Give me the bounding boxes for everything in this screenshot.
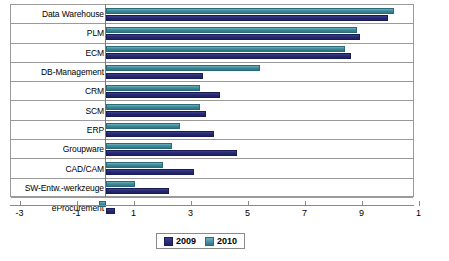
- legend-label-2010: 2010: [217, 236, 237, 246]
- x-tick-mark: [191, 201, 192, 206]
- bar-group: [11, 198, 413, 217]
- bar-group: [11, 101, 413, 119]
- bar-group: [11, 24, 413, 42]
- bar-2010: [106, 143, 172, 149]
- bar-2009: [106, 208, 115, 214]
- x-tick-mark: [305, 201, 306, 206]
- bar-group: [11, 5, 413, 23]
- x-tick-label: 9: [359, 208, 364, 218]
- chart-row: ECM: [11, 44, 413, 63]
- bar-2009: [106, 169, 194, 175]
- chart-row: CRM: [11, 82, 413, 101]
- x-tick-label: -3: [15, 208, 23, 218]
- bar-2010: [106, 85, 200, 91]
- bar-2009: [106, 111, 206, 117]
- category-axis-line: [105, 4, 106, 197]
- bar-2009: [106, 34, 360, 40]
- bar-group: [11, 159, 413, 177]
- bar-chart: Data WarehousePLMECMDB-ManagementCRMSCME…: [0, 0, 449, 261]
- bar-group: [11, 82, 413, 100]
- legend-item-2010: 2010: [205, 236, 237, 246]
- bar-2009: [106, 131, 214, 137]
- x-tick-mark: [419, 201, 420, 206]
- bar-group: [11, 44, 413, 62]
- x-axis-line: [10, 205, 414, 206]
- chart-row: Data Warehouse: [11, 5, 413, 24]
- bar-2009: [106, 15, 388, 21]
- bar-2009: [106, 73, 203, 79]
- bar-2010: [106, 65, 260, 71]
- chart-row: PLM: [11, 24, 413, 43]
- bar-2010: [106, 104, 200, 110]
- bar-2009: [106, 150, 237, 156]
- x-tick-mark: [20, 201, 21, 206]
- bar-2010: [106, 181, 135, 187]
- bar-2010: [106, 123, 180, 129]
- plot-area: Data WarehousePLMECMDB-ManagementCRMSCME…: [10, 4, 414, 197]
- bar-group: [11, 121, 413, 139]
- bar-2009: [106, 92, 220, 98]
- bar-2009: [106, 188, 169, 194]
- bar-group: [11, 140, 413, 158]
- x-tick-mark: [77, 201, 78, 206]
- category-rows: Data WarehousePLMECMDB-ManagementCRMSCME…: [11, 5, 413, 196]
- bar-2010: [106, 162, 163, 168]
- x-tick-mark: [362, 201, 363, 206]
- bar-2010: [106, 8, 394, 14]
- chart-row: DB-Management: [11, 63, 413, 82]
- x-tick-label: 3: [188, 208, 193, 218]
- legend-item-2009: 2009: [164, 236, 196, 246]
- x-tick-mark: [248, 201, 249, 206]
- chart-row: eProcurement: [11, 198, 413, 217]
- chart-row: CAD/CAM: [11, 159, 413, 178]
- x-tick-label: 7: [302, 208, 307, 218]
- legend-swatch-2009: [164, 237, 173, 246]
- bar-2010: [106, 46, 345, 52]
- chart-legend: 2009 2010: [156, 233, 245, 249]
- bar-2010: [106, 27, 357, 33]
- x-tick-label: 5: [245, 208, 250, 218]
- chart-row: SCM: [11, 101, 413, 120]
- x-tick-label: -1: [72, 208, 80, 218]
- bar-2009: [106, 53, 351, 59]
- chart-row: Groupware: [11, 140, 413, 159]
- bar-group: [11, 63, 413, 81]
- x-tick-label: 1: [416, 208, 421, 218]
- legend-swatch-2010: [205, 237, 214, 246]
- x-tick-mark: [134, 201, 135, 206]
- chart-row: SW-Entw.-werkzeuge: [11, 179, 413, 198]
- bar-group: [11, 179, 413, 197]
- x-tick-label: 1: [131, 208, 136, 218]
- legend-label-2009: 2009: [176, 236, 196, 246]
- chart-row: ERP: [11, 121, 413, 140]
